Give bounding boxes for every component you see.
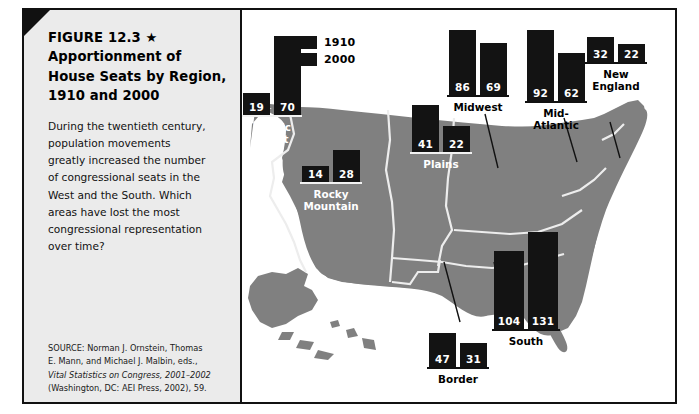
region-label-line: Coast: [242, 133, 302, 145]
figure-title-line: 1910 and 2000: [48, 86, 228, 105]
bars: 86 69: [447, 30, 509, 95]
bar-value: 31: [466, 354, 481, 368]
bar-group-mid-atlantic: 92 62 Mid- Atlantic: [525, 30, 587, 132]
region-label-line: Border: [427, 373, 489, 385]
figure-root: FIGURE 12.3 ★ Apportionment of House Sea…: [0, 0, 699, 414]
caption-line: population movements: [48, 135, 232, 152]
bar-value: 86: [455, 82, 470, 96]
baseline: [242, 115, 302, 117]
bar-2000: 69: [480, 43, 507, 95]
bar-value: 22: [449, 139, 464, 153]
region-label-line: Rocky: [300, 188, 362, 200]
bar-2000: 62: [558, 53, 585, 101]
region-label-south: South: [492, 335, 560, 347]
bar-1910: 86: [449, 30, 476, 95]
source-line: E. Mann, and Michael J. Malbin, eds.,: [48, 355, 238, 368]
bar-1910: 41: [412, 105, 439, 152]
bars: 19 70: [242, 36, 302, 115]
caption-line: over time?: [48, 238, 232, 255]
region-label-line: Plains: [410, 158, 472, 170]
bar-2000: 22: [618, 44, 645, 62]
bar-value: 22: [624, 49, 639, 63]
region-label-new-england: New England: [585, 68, 647, 93]
bar-group-rocky-mountain: 14 28 Rocky Mountain: [300, 150, 362, 213]
bar-value: 104: [498, 316, 521, 330]
bar-value: 14: [308, 169, 323, 183]
region-label-line: England: [585, 80, 647, 92]
bar-group-border: 47 31 Border: [427, 333, 489, 385]
bar-1910: 32: [587, 37, 614, 62]
bar-group-south: 104 131 South: [492, 232, 560, 347]
leader-line-border: [444, 262, 460, 322]
bar-value: 47: [435, 354, 450, 368]
baseline: [410, 152, 472, 154]
baseline: [300, 182, 362, 184]
bar-1910: 104: [494, 251, 524, 329]
region-label-border: Border: [427, 373, 489, 385]
region-label-mid-atlantic: Mid- Atlantic: [525, 107, 587, 132]
bar-value: 19: [249, 102, 264, 116]
bar-group-midwest: 86 69 Midwest: [447, 30, 509, 113]
bar-value: 28: [339, 169, 354, 183]
region-label-line: Mid-: [525, 107, 587, 119]
bar-value: 62: [564, 88, 579, 102]
region-label-line: Atlantic: [525, 119, 587, 131]
bar-2000: 31: [460, 343, 487, 367]
source-line: SOURCE: Norman J. Ornstein, Thomas: [48, 342, 238, 355]
region-label-line: Mountain: [300, 200, 362, 212]
region-label-line: Midwest: [447, 101, 509, 113]
bar-2000: 70: [274, 36, 301, 115]
source-line: (Washington, DC: AEI Press, 2002), 59.: [48, 382, 238, 395]
bar-1910: 47: [429, 333, 456, 367]
bar-value: 70: [280, 102, 295, 116]
region-label-line: South: [492, 335, 560, 347]
corner-triangle-decoration: [24, 10, 50, 36]
bar-value: 41: [418, 139, 433, 153]
bar-2000: 22: [443, 126, 470, 152]
leader-line-midwest: [485, 114, 498, 168]
leader-line-newengland: [610, 122, 620, 158]
bar-2000: 28: [333, 150, 360, 182]
bar-value: 92: [533, 88, 548, 102]
caption-line: congressional representation: [48, 221, 232, 238]
baseline: [525, 101, 587, 103]
region-label-rocky-mountain: Rocky Mountain: [300, 188, 362, 213]
baseline: [492, 329, 560, 331]
region-label-line: Pacific: [242, 121, 302, 133]
bar-value: 32: [593, 49, 608, 63]
region-label-line: New: [585, 68, 647, 80]
bars: 92 62: [525, 30, 587, 101]
bars: 32 22: [585, 37, 647, 62]
figure-source-citation: SOURCE: Norman J. Ornstein, Thomas E. Ma…: [48, 342, 238, 395]
caption-line: greatly increased the number: [48, 152, 232, 169]
bars: 47 31: [427, 333, 489, 367]
region-label-midwest: Midwest: [447, 101, 509, 113]
baseline: [585, 62, 647, 64]
bar-value: 69: [486, 82, 501, 96]
figure-frame: FIGURE 12.3 ★ Apportionment of House Sea…: [22, 8, 677, 404]
bar-1910: 19: [243, 93, 270, 115]
bar-2000: 131: [528, 232, 558, 329]
map-panel: 1910 2000: [242, 10, 675, 402]
source-line: Vital Statistics on Congress, 2001–2002: [48, 369, 238, 382]
caption-line: During the twentieth century,: [48, 118, 232, 135]
figure-title-line: Apportionment of: [48, 47, 228, 66]
figure-title: FIGURE 12.3 ★ Apportionment of House Sea…: [48, 28, 228, 105]
bars: 14 28: [300, 150, 362, 182]
baseline: [447, 95, 509, 97]
bar-group-pacific-coast: 19 70 Pacific Coast: [242, 36, 302, 146]
figure-caption-text: During the twentieth century, population…: [48, 118, 232, 255]
bars: 104 131: [492, 232, 560, 329]
caption-line: areas have lost the most: [48, 204, 232, 221]
baseline: [427, 367, 489, 369]
bar-group-new-england: 32 22 New England: [585, 37, 647, 93]
bar-1910: 92: [527, 30, 554, 101]
bar-value: 131: [532, 316, 555, 330]
caption-line: of congressional seats in the: [48, 169, 232, 186]
region-label-pacific-coast: Pacific Coast: [242, 121, 302, 146]
bar-group-plains: 41 22 Plains: [410, 105, 472, 170]
bar-1910: 14: [302, 166, 329, 182]
caption-panel: FIGURE 12.3 ★ Apportionment of House Sea…: [24, 10, 242, 402]
region-label-plains: Plains: [410, 158, 472, 170]
caption-line: West and the South. Which: [48, 187, 232, 204]
